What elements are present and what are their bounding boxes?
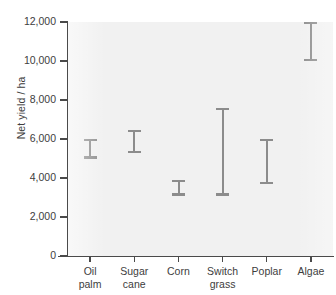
y-axis-tick xyxy=(60,138,67,139)
y-axis-tick-label: 6,000 xyxy=(0,132,56,144)
y-axis-tick-label: 10,000 xyxy=(0,54,56,66)
range-bar-stem xyxy=(222,108,224,196)
x-axis-tick xyxy=(89,256,90,262)
range-bar-cap-bottom xyxy=(260,182,273,184)
range-bar xyxy=(128,130,141,152)
range-bar-cap-bottom xyxy=(304,59,317,61)
range-bar-stem xyxy=(266,139,268,184)
y-axis-tick-label: 0 xyxy=(0,249,56,261)
range-bar xyxy=(84,139,97,159)
range-bar xyxy=(304,22,317,61)
range-bar xyxy=(260,139,273,184)
y-axis-title: Net yield / ha xyxy=(13,48,29,168)
y-axis-tick-label: 2,000 xyxy=(0,210,56,222)
range-bar-cap-bottom xyxy=(128,151,141,153)
x-axis-tick xyxy=(178,256,179,262)
y-axis-tick xyxy=(60,216,67,217)
y-axis-tick-label: 12,000 xyxy=(0,15,56,27)
range-bar-cap-bottom xyxy=(84,156,97,158)
x-axis-tick-label: Algae xyxy=(283,265,336,278)
x-axis-line xyxy=(58,256,334,257)
y-axis-tick-label: 8,000 xyxy=(0,93,56,105)
x-axis-tick xyxy=(134,256,135,262)
range-bar xyxy=(216,108,229,196)
x-axis-tick xyxy=(310,256,311,262)
range-bar-cap-bottom xyxy=(172,193,185,195)
range-bar-stem xyxy=(133,130,135,152)
net-yield-range-chart: Net yield / ha 02,0004,0006,0008,00010,0… xyxy=(0,0,336,295)
y-axis-tick xyxy=(60,21,67,22)
x-axis-tick-label-line: grass xyxy=(195,278,251,291)
y-axis-tick xyxy=(60,177,67,178)
range-bar-cap-bottom xyxy=(216,193,229,195)
y-axis-tick xyxy=(60,99,67,100)
plot-area xyxy=(68,22,333,256)
y-axis-tick xyxy=(60,60,67,61)
range-bar-stem xyxy=(310,22,312,61)
x-axis-tick-label-line: Algae xyxy=(283,265,336,278)
y-axis-line xyxy=(67,21,68,257)
x-axis-tick-label-line: cane xyxy=(106,278,162,291)
x-axis-tick xyxy=(222,256,223,262)
y-axis-tick xyxy=(60,255,67,256)
y-axis-tick-label: 4,000 xyxy=(0,171,56,183)
x-axis-tick xyxy=(266,256,267,262)
range-bar xyxy=(172,180,185,196)
